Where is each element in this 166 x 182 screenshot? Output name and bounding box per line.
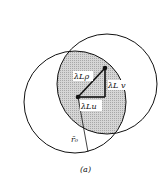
point-start xyxy=(76,95,81,100)
overlapping-circles-diagram: λLρ λL v λLu r̄₀ (a) xyxy=(0,0,166,182)
horizontal-leg-label: λLu xyxy=(80,102,97,111)
vertical-leg-label: λL v xyxy=(107,81,126,90)
hypotenuse-label: λLρ xyxy=(73,72,89,81)
figure-caption: (a) xyxy=(80,165,91,174)
overlap-region xyxy=(57,34,157,134)
point-end xyxy=(103,66,108,71)
radius-label: r̄₀ xyxy=(71,135,79,144)
